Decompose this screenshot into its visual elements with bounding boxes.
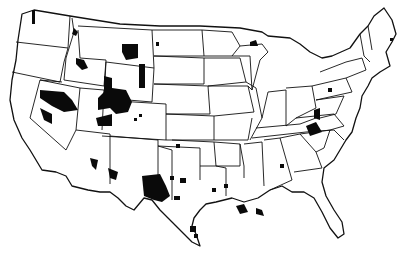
us-map (0, 0, 408, 253)
